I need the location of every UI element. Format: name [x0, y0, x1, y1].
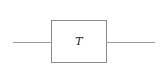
block-t: T [51, 20, 107, 63]
block-label: T [75, 36, 82, 47]
output-wire [106, 42, 155, 43]
input-wire [13, 42, 51, 43]
